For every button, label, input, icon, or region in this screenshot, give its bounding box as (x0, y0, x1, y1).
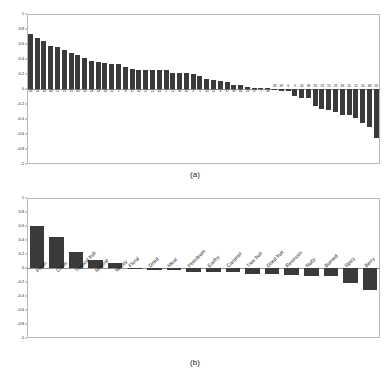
bar-slot: 39 (230, 14, 237, 164)
category-label: 1 (118, 90, 120, 93)
bar-slot: 15 (325, 14, 332, 164)
y-tick-label: 0.6 (18, 42, 24, 46)
bar (340, 89, 345, 115)
bar (343, 268, 358, 283)
y-tick-label: 0.6 (18, 224, 24, 228)
category-label: 31 (313, 85, 316, 88)
category-label: 23 (320, 85, 323, 88)
bar-slot: 12 (169, 14, 176, 164)
y-tick-label: 0.4 (18, 238, 24, 242)
bar-slot: 30 (176, 14, 183, 164)
bar-slot: Floral (125, 198, 145, 338)
category-label: 28 (90, 90, 93, 93)
y-tick-label: -0.4 (17, 117, 24, 121)
bar (147, 268, 162, 270)
bar-slot: 53 (203, 14, 210, 164)
bar-slot: 36 (305, 14, 312, 164)
bar-slot: 37 (251, 14, 258, 164)
bar (28, 34, 33, 89)
bar (109, 64, 114, 90)
bar (204, 79, 209, 90)
category-label: Berry (363, 256, 375, 268)
y-tick-label: 0 (22, 266, 24, 270)
bar-slot: 45 (74, 14, 81, 164)
bar (353, 89, 358, 118)
bar-slot: 6 (285, 14, 292, 164)
bar-slot: 20 (359, 14, 366, 164)
bar-slot: 22 (149, 14, 156, 164)
bar-slot: 50 (81, 14, 88, 164)
bar (184, 73, 189, 89)
category-label: Nutty (305, 257, 317, 269)
bar-slot: Caramel (223, 198, 243, 338)
category-label: 47 (225, 90, 228, 93)
category-label: 45 (76, 90, 79, 93)
category-label: 7 (260, 90, 262, 93)
bar (326, 89, 331, 110)
bar-slot: Dried (145, 198, 165, 338)
bar-slot: 24 (95, 14, 102, 164)
bar (333, 89, 338, 112)
y-tick-label: 0.4 (18, 57, 24, 61)
bar (75, 55, 80, 89)
bar-slot: Burned (321, 198, 341, 338)
y-tick-label: -1 (20, 336, 24, 340)
category-label: 37 (252, 90, 255, 93)
category-label: 43 (341, 85, 344, 88)
bar (363, 268, 378, 290)
category-label: 26 (246, 90, 249, 93)
bar-slot: Berry (360, 198, 380, 338)
bar (96, 62, 101, 89)
category-label: 25 (69, 90, 72, 93)
category-label: 24 (96, 90, 99, 93)
bar-slot: 37 (129, 14, 136, 164)
bar-slot: Fresh (27, 198, 47, 338)
y-tick-label: -0.2 (17, 280, 24, 284)
bar (197, 76, 202, 90)
category-label: 29 (334, 85, 337, 88)
category-label: 19 (63, 90, 66, 93)
bar-slot: 33 (41, 14, 48, 164)
y-tick-label: 1 (22, 196, 24, 200)
bar (279, 89, 284, 91)
bar-slot: 27 (142, 14, 149, 164)
bar (286, 89, 291, 91)
y-tick-label: 1 (22, 12, 24, 16)
bar-slot: Petroleum (184, 198, 204, 338)
bar (130, 69, 135, 89)
bar-slot: Meat (164, 198, 184, 338)
category-label: 21 (56, 90, 59, 93)
bar-slot: 44 (156, 14, 163, 164)
bar (306, 89, 311, 98)
bar-slot: 35 (183, 14, 190, 164)
bar (186, 268, 201, 272)
category-label: 9 (294, 85, 296, 88)
category-label: 18 (273, 85, 276, 88)
category-label: 10 (347, 85, 350, 88)
category-label: 36 (307, 85, 310, 88)
bar (324, 268, 339, 276)
y-tick-label: 0.8 (18, 210, 24, 214)
panel-caption-a: (a) (0, 170, 390, 179)
bar-slot: 28 (88, 14, 95, 164)
bar-slot: 3 (190, 14, 197, 164)
category-label: Earthy (206, 255, 220, 269)
category-label: 39 (232, 90, 235, 93)
category-label: Spicy (344, 256, 356, 268)
category-label: 33 (42, 90, 45, 93)
bar (206, 268, 221, 272)
bar-slot: Spicy (341, 198, 361, 338)
panel-caption-b: (b) (0, 358, 390, 367)
category-label: 44 (157, 90, 160, 93)
category-label: 5 (199, 90, 201, 93)
bar (191, 74, 196, 89)
category-label: 2 (165, 90, 167, 93)
bar-slot: 31 (312, 14, 319, 164)
bar (62, 50, 67, 89)
bar-slot: 7 (258, 14, 265, 164)
bar (123, 67, 128, 90)
category-label: 40 (239, 90, 242, 93)
bar-slot: Earthy (203, 198, 223, 338)
bar-slot: Tree fruit (243, 198, 263, 338)
bar (143, 70, 148, 90)
